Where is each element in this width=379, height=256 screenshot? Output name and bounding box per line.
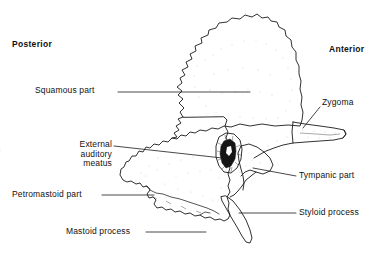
label-zygoma: Zygoma — [322, 98, 354, 108]
leader-lines — [102, 92, 320, 232]
bone-surface-texture — [0, 40, 336, 201]
bone-outline-group — [120, 14, 303, 221]
leader-line-tympanic — [253, 168, 296, 176]
label-external-auditory-meatus: External auditory meatus — [58, 140, 112, 169]
label-petromastoid-part: Petromastoid part — [12, 190, 82, 200]
leader-line-eam — [114, 146, 222, 158]
temporal-bone-figure: Posterior Anterior Squamous part Zygoma … — [0, 0, 379, 256]
zygoma-inner-line — [300, 133, 340, 135]
zygoma-outline — [254, 122, 346, 158]
temporal-bone-illustration — [0, 0, 379, 256]
label-squamous-part: Squamous part — [35, 86, 95, 96]
styloid-process-outline — [221, 196, 252, 243]
orientation-label-posterior: Posterior — [12, 40, 52, 50]
label-styloid-process: Styloid process — [299, 208, 359, 218]
orientation-label-anterior: Anterior — [329, 45, 364, 55]
squamous-and-petromastoid-outline — [120, 14, 303, 221]
label-mastoid-process: Mastoid process — [66, 227, 130, 237]
label-tympanic-part: Tympanic part — [299, 171, 354, 181]
mastoid-process-detail — [146, 186, 219, 215]
